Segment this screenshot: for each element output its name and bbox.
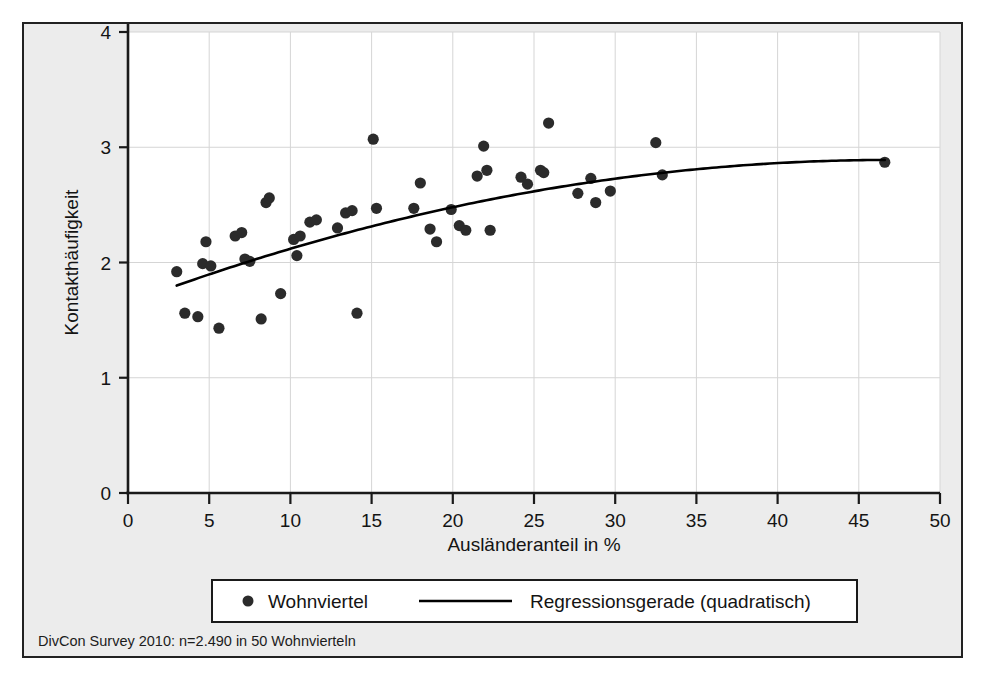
legend-label-regression: Regressionsgerade (quadratisch) <box>530 591 811 612</box>
legend-dot-icon <box>243 596 254 607</box>
source-note: DivCon Survey 2010: n=2.490 in 50 Wohnvi… <box>38 633 356 649</box>
data-point <box>275 288 286 299</box>
x-axis-tick-label: 50 <box>929 510 950 531</box>
data-point <box>481 165 492 176</box>
data-point <box>415 177 426 188</box>
data-point <box>200 236 211 247</box>
x-axis-tick-label: 35 <box>686 510 707 531</box>
data-point <box>205 260 216 271</box>
data-point <box>657 169 668 180</box>
x-axis-tick-label: 40 <box>767 510 788 531</box>
chart-page: 0123405101520253035404550 Ausländerantei… <box>0 0 991 675</box>
data-point <box>472 170 483 181</box>
data-point <box>543 117 554 128</box>
data-point <box>171 266 182 277</box>
data-point <box>408 203 419 214</box>
data-point <box>371 203 382 214</box>
y-axis-tick-label: 1 <box>100 368 111 389</box>
data-point <box>478 140 489 151</box>
y-axis-title: Kontakthäufigkeit <box>61 189 82 335</box>
data-point <box>572 188 583 199</box>
x-axis-tick-label: 15 <box>361 510 382 531</box>
y-axis-tick-label: 3 <box>100 137 111 158</box>
data-point <box>295 230 306 241</box>
y-axis-tick-label: 4 <box>100 24 111 43</box>
x-axis-tick-label: 30 <box>605 510 626 531</box>
x-axis-tick-label: 0 <box>123 510 134 531</box>
x-axis-tick-label: 25 <box>523 510 544 531</box>
x-axis-title: Ausländeranteil in % <box>447 534 620 555</box>
y-axis-tick-label: 0 <box>100 483 111 504</box>
data-point <box>879 157 890 168</box>
data-point <box>264 192 275 203</box>
data-point <box>291 250 302 261</box>
data-point <box>485 225 496 236</box>
data-point <box>351 308 362 319</box>
data-point <box>332 222 343 233</box>
data-point <box>650 137 661 148</box>
data-point <box>605 185 616 196</box>
x-axis-tick-label: 10 <box>280 510 301 531</box>
data-point <box>590 197 601 208</box>
data-point <box>347 205 358 216</box>
data-point <box>368 134 379 145</box>
data-point <box>431 236 442 247</box>
scatter-chart: 0123405101520253035404550 Ausländerantei… <box>24 24 961 656</box>
data-point <box>460 225 471 236</box>
data-point <box>538 167 549 178</box>
chart-legend: Wohnviertel Regressionsgerade (quadratis… <box>212 580 857 622</box>
data-point <box>236 227 247 238</box>
legend-label-wohnviertel: Wohnviertel <box>268 591 368 612</box>
data-point <box>192 311 203 322</box>
data-point <box>522 179 533 190</box>
data-point <box>424 223 435 234</box>
data-point <box>256 313 267 324</box>
data-point <box>311 214 322 225</box>
data-point <box>213 323 224 334</box>
x-axis-tick-label: 20 <box>442 510 463 531</box>
x-axis-tick-label: 45 <box>848 510 869 531</box>
figure-frame: 0123405101520253035404550 Ausländerantei… <box>22 22 963 658</box>
y-axis-tick-label: 2 <box>100 253 111 274</box>
x-axis-tick-label: 5 <box>204 510 215 531</box>
data-point <box>179 308 190 319</box>
